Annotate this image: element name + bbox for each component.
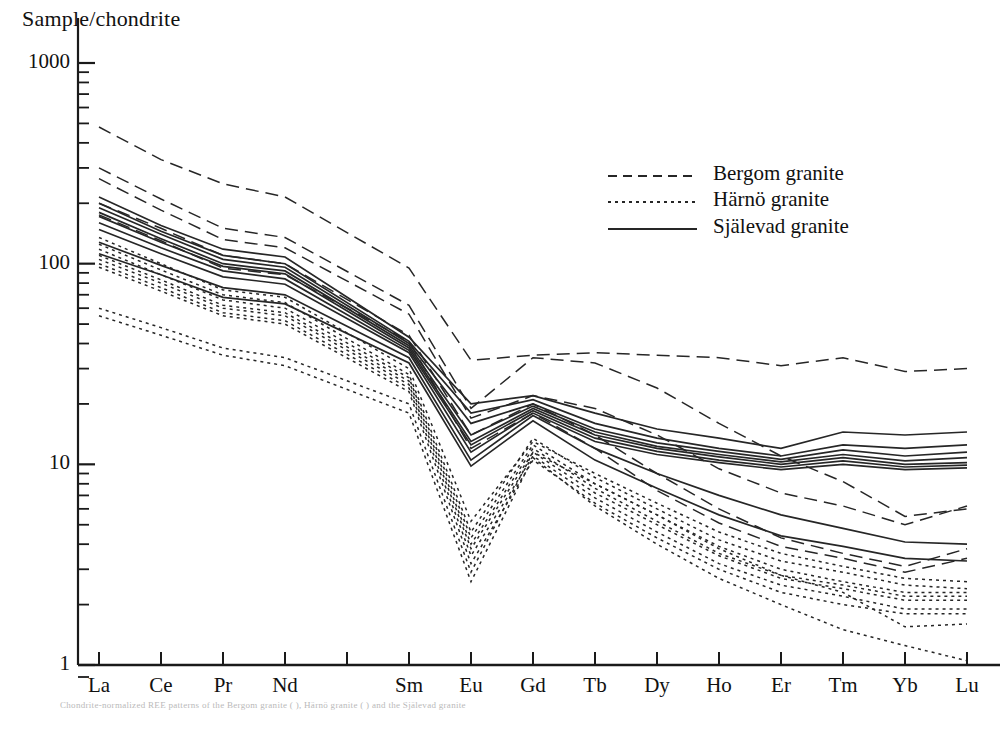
x-tick-label: Eu — [441, 673, 501, 698]
series-line — [99, 254, 967, 561]
x-tick-label: Yb — [875, 673, 935, 698]
x-tick-label: Dy — [627, 673, 687, 698]
page-bleed-text: Chondrite-normalized REE patterns of the… — [60, 700, 466, 710]
x-tick-label: Gd — [503, 673, 563, 698]
series-line — [99, 216, 967, 464]
series-line — [99, 203, 967, 566]
series-line — [99, 316, 967, 661]
series-line — [99, 308, 967, 627]
series-line — [99, 203, 967, 456]
ree-spider-diagram: Sample/chondrite 1000100101 LaCePrNdSmEu… — [0, 0, 1007, 731]
legend-item-label: Bergom granite — [713, 161, 844, 186]
legend-item-label: Själevad granite — [713, 214, 849, 239]
series-line — [99, 259, 967, 600]
x-tick-label: Nd — [255, 673, 315, 698]
x-tick-label: Er — [751, 673, 811, 698]
x-tick-label: Ce — [131, 673, 191, 698]
x-tick-label: Tm — [813, 673, 873, 698]
y-tick-label: 10 — [49, 450, 70, 475]
y-tick-label: 1000 — [28, 49, 70, 74]
x-tick-label: Ho — [689, 673, 749, 698]
plot-area — [0, 0, 1007, 731]
series-line — [99, 215, 967, 572]
x-tick-label: La — [69, 673, 129, 698]
x-tick-label: Tb — [565, 673, 625, 698]
x-tick-label: Lu — [937, 673, 997, 698]
legend-item-label: Härnö granite — [713, 187, 829, 212]
x-tick-label: Sm — [379, 673, 439, 698]
series-line — [99, 242, 967, 544]
x-tick-label: Pr — [193, 673, 253, 698]
series-line — [99, 267, 967, 614]
y-tick-label: 100 — [39, 250, 71, 275]
